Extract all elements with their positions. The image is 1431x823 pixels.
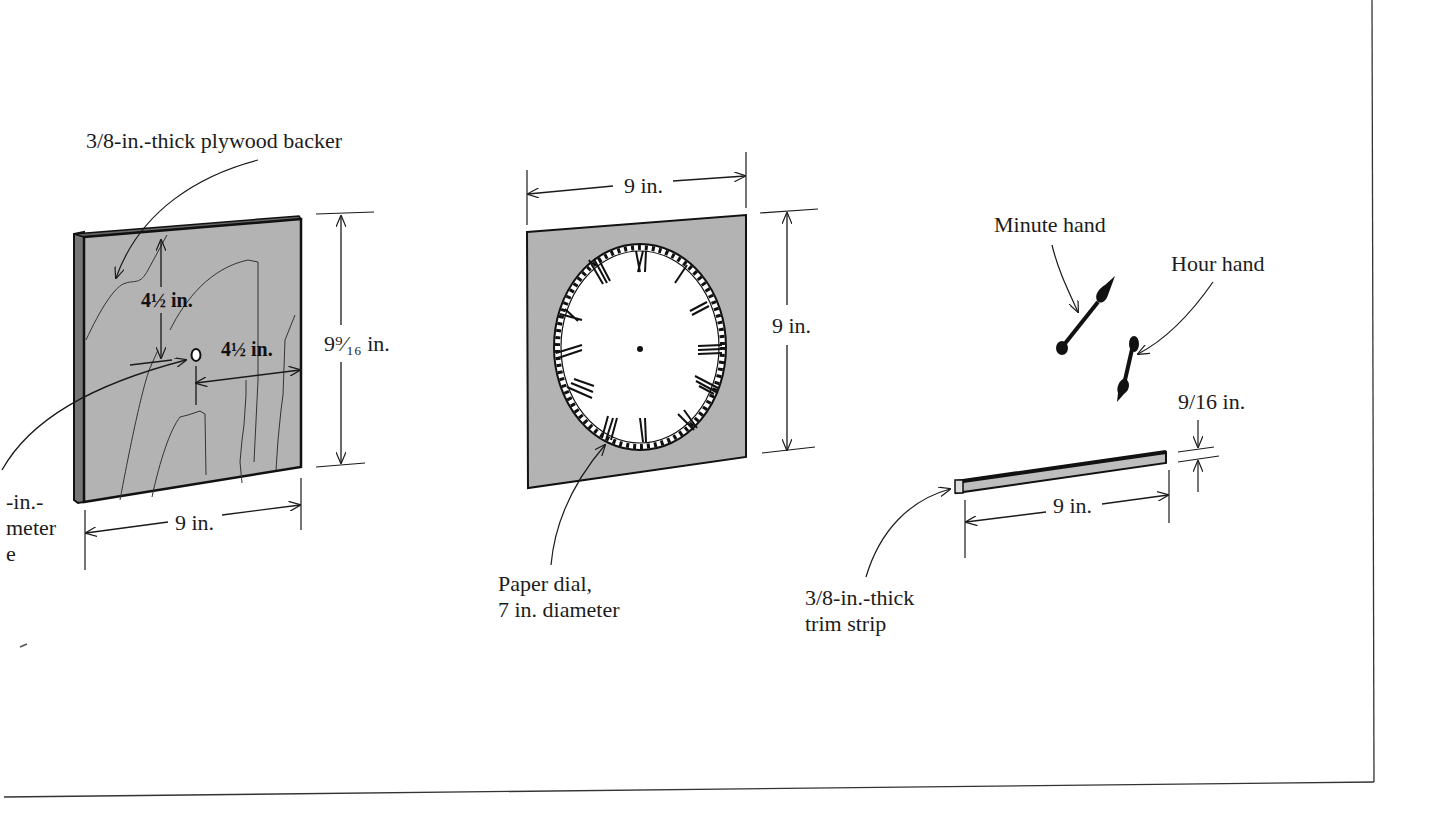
- dial-height-label: 9 in.: [772, 313, 811, 339]
- hole-callout-line2: meter: [6, 515, 56, 541]
- backer-callout-label: 3/8-in.-thick plywood backer: [86, 128, 342, 154]
- backer-vertical-offset-label: 4½ in.: [141, 287, 193, 313]
- hour-hand-drawing: [1117, 282, 1213, 402]
- dial-panel: [527, 152, 818, 565]
- scan-speck: [20, 644, 27, 647]
- diagram-canvas: 3/8-in.-thick plywood backer 4½ in. 4½ i…: [0, 0, 1431, 823]
- backer-horizontal-offset-label: 4½ in.: [221, 336, 273, 362]
- trim-thickness-label: 9/16 in.: [1178, 389, 1245, 415]
- hole-callout-label: -in.- meter e: [6, 489, 56, 567]
- backer-width-label: 9 in.: [175, 510, 214, 536]
- trim-callout-label: 3/8-in.-thick trim strip: [805, 585, 914, 637]
- trim-callout-line2: trim strip: [805, 611, 914, 637]
- hole-callout-line1: -in.-: [6, 489, 56, 515]
- plywood-backer: [2, 160, 374, 570]
- hole-callout-line3: e: [6, 541, 56, 567]
- trim-strip-drawing: [866, 420, 1219, 577]
- minute-hand-label: Minute hand: [994, 212, 1106, 238]
- dial-callout-line1: Paper dial,: [498, 571, 620, 597]
- trim-callout-line1: 3/8-in.-thick: [805, 585, 914, 611]
- dial-width-label: 9 in.: [624, 173, 663, 199]
- dial-callout-label: Paper dial, 7 in. diameter: [498, 571, 620, 623]
- trim-length-label: 9 in.: [1053, 493, 1092, 519]
- dial-callout-line2: 7 in. diameter: [498, 597, 620, 623]
- hour-hand-label: Hour hand: [1171, 251, 1264, 277]
- backer-height-label: 9⁹⁄₁₆ in.: [324, 331, 390, 357]
- center-hole: [192, 349, 201, 361]
- minute-hand-drawing: [1052, 245, 1115, 355]
